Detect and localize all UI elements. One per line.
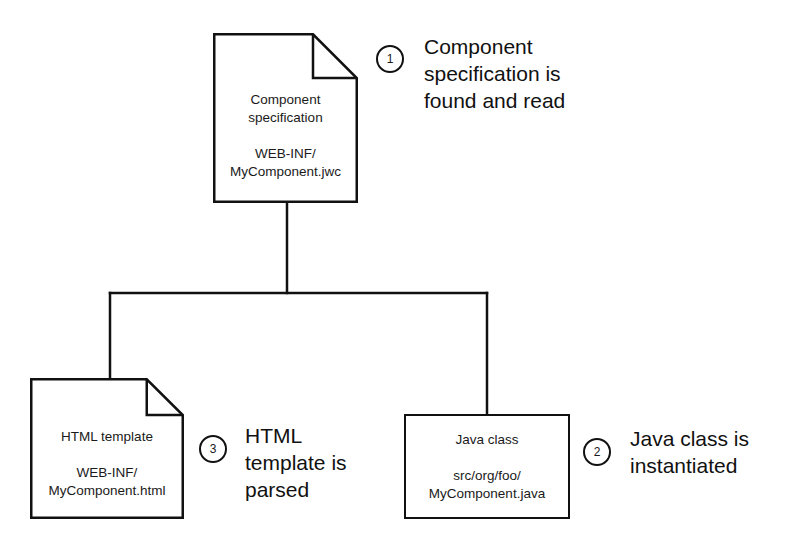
node-html-template[interactable]: HTML template WEB-INF/ MyComponent.html [30, 378, 184, 519]
step-badge-number: 2 [594, 445, 601, 459]
step-badge-number: 1 [387, 52, 394, 66]
node-path: src/org/foo/ MyComponent.java [429, 467, 545, 503]
node-title: HTML template [61, 428, 153, 446]
node-path: WEB-INF/ MyComponent.html [48, 464, 165, 500]
caption-java-class: Java class is instantiated [630, 425, 749, 479]
node-path: WEB-INF/ MyComponent.jwc [230, 145, 341, 181]
step-badge-1: 1 [376, 45, 404, 73]
diagram-canvas: Component specification WEB-INF/ MyCompo… [0, 0, 788, 555]
step-badge-2: 2 [583, 438, 611, 466]
caption-component-spec: Component specification is found and rea… [424, 33, 565, 114]
node-title: Component specification [248, 91, 322, 127]
step-badge-3: 3 [199, 435, 227, 463]
node-java-class[interactable]: Java class src/org/foo/ MyComponent.java [404, 414, 570, 519]
caption-html-template: HTML template is parsed [245, 422, 347, 503]
node-component-spec[interactable]: Component specification WEB-INF/ MyCompo… [213, 33, 358, 203]
step-badge-number: 3 [210, 442, 217, 456]
node-title: Java class [455, 431, 518, 449]
